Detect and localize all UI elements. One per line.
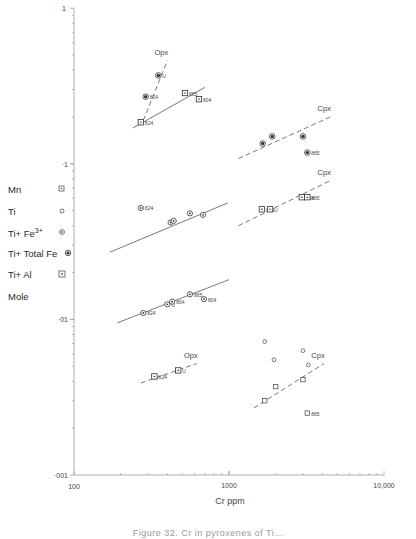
point-label: 865 <box>194 292 203 298</box>
square-dot-icon <box>58 185 66 193</box>
x-tick-label: 10,000 <box>373 482 395 489</box>
data-point <box>260 141 266 147</box>
data-point <box>272 358 276 362</box>
y-tick-label: ·001 <box>54 472 68 479</box>
point-label: U <box>162 73 166 79</box>
data-point <box>299 195 304 200</box>
data-point <box>305 195 310 200</box>
data-point <box>187 292 192 297</box>
point-label: 824 <box>158 374 167 380</box>
legend-label: Ti+ Total Fe <box>8 248 57 259</box>
data-point <box>269 134 275 140</box>
legend-label-sup: 3+ <box>35 227 43 234</box>
data-point <box>156 73 162 79</box>
data-point <box>263 399 267 403</box>
point-label: 865 <box>189 91 198 97</box>
data-point <box>200 212 205 217</box>
y-axis-label-mole: Mole <box>8 291 29 302</box>
data-point <box>196 97 201 102</box>
data-point <box>273 384 277 388</box>
figure-caption: Figure 32. Cr in pyroxenes of Ti... <box>0 528 416 538</box>
legend-label: Ti <box>8 206 16 217</box>
point-label: 824 <box>147 310 156 316</box>
circle-open-icon <box>58 207 66 215</box>
legend-label: Mn <box>8 184 21 195</box>
point-label: 824 <box>145 120 154 126</box>
point-label: 824 <box>150 94 159 100</box>
series-label: Opx <box>154 48 168 57</box>
data-point <box>152 374 157 379</box>
data-point <box>141 310 146 315</box>
trend-line <box>238 181 330 226</box>
data-point <box>201 297 206 302</box>
series-label: Cpx <box>318 104 332 113</box>
point-label: U <box>274 207 278 213</box>
point-label: 804 <box>176 299 185 305</box>
x-tick-label: 100 <box>68 483 80 490</box>
data-point <box>259 207 264 212</box>
series-label: Cpx <box>311 351 325 360</box>
data-point <box>300 134 306 140</box>
point-label: 865 <box>311 411 320 417</box>
point-label: 865 <box>311 195 320 201</box>
legend-item-ti-fe3: Ti+ Fe3+ <box>8 227 43 239</box>
point-label: 804 <box>203 97 212 103</box>
data-point <box>182 90 187 95</box>
y-tick-label: ·01 <box>58 316 68 323</box>
data-point <box>170 299 175 304</box>
x-axis-label: Cr ppm <box>215 496 245 506</box>
data-point <box>165 302 170 307</box>
point-label: 804 <box>208 297 217 303</box>
legend-item-ti: Ti <box>8 206 16 217</box>
y-tick-label: 1 <box>62 5 66 12</box>
data-point <box>263 340 267 344</box>
data-point <box>187 211 192 216</box>
circle-dot-icon <box>58 228 66 236</box>
square-dot-large-icon <box>58 270 67 279</box>
legend-label: Ti+ Al <box>8 269 32 280</box>
data-point <box>171 218 176 223</box>
data-point <box>175 368 180 373</box>
data-point <box>301 377 305 381</box>
x-tick-label: 1000 <box>221 482 237 489</box>
data-point <box>138 120 143 125</box>
point-label: U <box>182 368 186 374</box>
legend-label: Mole <box>8 291 29 302</box>
y-tick-label: ·1 <box>62 161 68 168</box>
data-point <box>306 363 310 367</box>
trend-line <box>143 61 167 121</box>
circle-filled-ring-icon <box>64 249 72 257</box>
point-label: 824 <box>145 205 154 211</box>
legend-label: Ti+ Fe <box>8 228 35 239</box>
legend-item-ti-total-fe: Ti+ Total Fe <box>8 248 57 259</box>
data-point <box>301 349 305 353</box>
point-label: 865 <box>311 150 320 156</box>
data-point <box>138 205 143 210</box>
trend-line <box>141 364 197 383</box>
legend-item-mn: Mn <box>8 184 21 195</box>
series-label: Opx <box>184 351 198 360</box>
data-point <box>267 207 272 212</box>
data-point <box>305 411 309 415</box>
legend-item-ti-al: Ti+ Al <box>8 269 32 280</box>
data-point <box>304 150 310 156</box>
series-label: Cpx <box>318 168 332 177</box>
trend-line <box>110 203 228 252</box>
data-point <box>143 94 149 100</box>
